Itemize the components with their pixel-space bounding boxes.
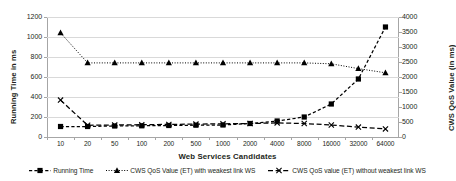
series-line	[61, 33, 386, 73]
data-point-triangle	[220, 60, 226, 66]
data-point-square	[329, 101, 334, 106]
data-point-x	[58, 98, 63, 103]
data-point-square	[112, 123, 117, 128]
data-point-triangle	[57, 30, 63, 36]
data-point-square	[302, 114, 307, 119]
legend-key-triangle-dotted-icon	[106, 166, 128, 175]
chart-legend: Running TimeCWS QoS Value (ET) with weak…	[0, 166, 455, 175]
data-point-x	[383, 126, 388, 131]
series-square	[58, 24, 388, 129]
data-point-triangle	[328, 61, 334, 67]
data-point-square	[356, 76, 361, 81]
data-point-square	[58, 124, 63, 129]
legend-label: CWS QoS Value (ET) with weakest link WS	[130, 167, 255, 174]
series-triangle	[57, 30, 388, 76]
legend-label: Running Time	[53, 167, 93, 174]
legend-key-square-dashed-icon	[29, 166, 51, 175]
data-point-square	[38, 168, 43, 173]
legend-item[interactable]: CWS QoS value (ET) without weakest link …	[268, 166, 425, 175]
data-point-triangle	[166, 60, 172, 66]
data-point-square	[383, 24, 388, 29]
data-point-triangle	[382, 70, 388, 76]
legend-label: CWS QoS value (ET) without weakest link …	[292, 167, 425, 174]
legend-key-x-dashed-icon	[268, 166, 290, 175]
series-line	[61, 27, 386, 127]
legend-item[interactable]: CWS QoS Value (ET) with weakest link WS	[106, 166, 255, 175]
legend-item[interactable]: Running Time	[29, 166, 93, 175]
